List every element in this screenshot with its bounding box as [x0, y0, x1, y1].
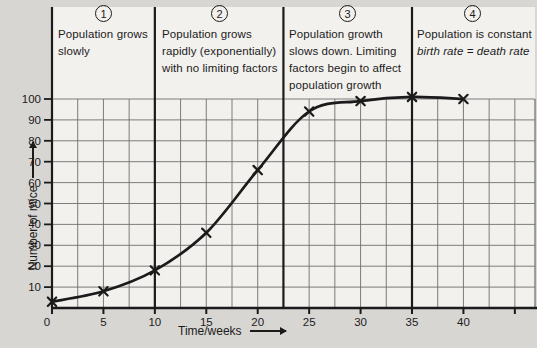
phase-2-text-line-1: Population grows [162, 26, 278, 43]
phase-2-text-line-2: rapidly (exponentially) [162, 43, 278, 60]
phase-2-number-badge: 2 [211, 5, 228, 22]
phase-3-number-badge: 3 [339, 5, 356, 22]
y-axis-tick-label: 100 [22, 93, 41, 105]
x-axis-tick-label: 35 [406, 316, 419, 328]
phase-2-text-line-3: with no limiting factors [162, 60, 278, 77]
phase-3-annotation: Population growth slows down. Limiting f… [289, 26, 401, 94]
x-axis-title: Time/weeks [178, 324, 286, 338]
phase-1-number-badge: 1 [95, 5, 112, 22]
x-axis-tick-label: 0 [44, 316, 50, 328]
y-axis-title-text: Number of mice [26, 186, 40, 271]
x-axis-tick-label: 40 [457, 316, 470, 328]
phase-3-text-line-4: population growth [289, 77, 401, 94]
x-axis-tick-label: 10 [148, 316, 161, 328]
phase-3-text-line-1: Population growth [289, 26, 401, 43]
up-arrow-icon [32, 142, 34, 178]
phase-4-text-line-2: birth rate = death rate [417, 43, 532, 60]
phase-1-text-line-1: Population grows [58, 26, 148, 43]
population-growth-figure: 1020304050607080901000510152025303540 1 … [0, 0, 537, 348]
x-axis-title-text: Time/weeks [178, 324, 242, 338]
phase-3-text-line-3: factors begin to affect [289, 60, 401, 77]
x-axis-tick-label: 5 [100, 316, 106, 328]
phase-2-annotation: Population grows rapidly (exponentially)… [162, 26, 278, 77]
y-axis-title: Number of mice [25, 110, 41, 302]
phase-1-annotation: Population grows slowly [58, 26, 148, 60]
x-axis-tick-label: 30 [354, 316, 367, 328]
phase-4-number-badge: 4 [464, 5, 481, 22]
phase-4-text-line-1: Population is constant [417, 26, 532, 43]
right-arrow-icon [250, 330, 286, 332]
x-axis-tick-label: 25 [303, 316, 316, 328]
phase-1-text-line-2: slowly [58, 43, 148, 60]
phase-3-text-line-2: slows down. Limiting [289, 43, 401, 60]
phase-4-annotation: Population is constant birth rate = deat… [417, 26, 532, 60]
